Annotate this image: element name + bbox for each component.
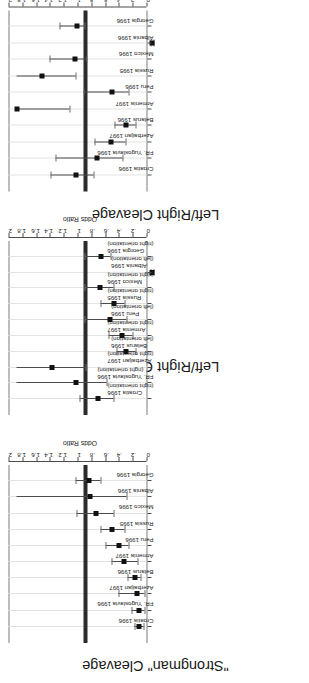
point-estimate <box>97 285 102 290</box>
confidence-interval-bar <box>50 174 93 175</box>
frame-top-line <box>8 10 9 191</box>
ci-upper-cap <box>84 253 85 260</box>
category-tick <box>147 610 151 611</box>
category-label-country-year: Croatia 1996 <box>118 618 153 625</box>
category-label-country-year: Armenia 1997 <box>115 100 153 107</box>
frame-top-line <box>8 465 9 643</box>
axis-tick-label: 1.6 <box>30 0 39 4</box>
point-estimate <box>109 527 114 532</box>
estimate-marker <box>8 42 146 43</box>
point-estimate <box>95 396 100 401</box>
axis-tick-label: 1 <box>77 228 80 235</box>
axis-tick-label: .8 <box>89 228 94 235</box>
category-tick <box>147 577 151 578</box>
point-estimate <box>109 89 114 94</box>
axis-tick-label: 0 <box>146 228 149 235</box>
category-label: Albania 1996 <box>117 34 153 41</box>
category-label-country-year: Russia 1995 <box>119 67 153 74</box>
category-tick <box>147 303 151 304</box>
ci-lower-cap <box>113 510 114 517</box>
category-label-orientation: (right orientation) <box>107 320 153 327</box>
category-label: Belarus 1996 <box>117 569 153 576</box>
estimate-marker <box>8 141 146 142</box>
category-label-country-year: Belarus 1996 <box>111 343 147 350</box>
category-label: Georgia 1996 <box>116 17 153 24</box>
category-label-country-year: Russia 1995 <box>119 521 153 528</box>
estimate-marker <box>8 25 146 26</box>
odds-ratio-axis-line <box>8 237 146 238</box>
panel-title-text: "Strongman" Cleavage <box>81 658 228 674</box>
axis-tick-label: 2 <box>8 0 11 4</box>
panel-title: Left/Right Cleavage <box>0 197 309 231</box>
category-label: Armenia 1997 <box>115 100 153 107</box>
ci-upper-cap <box>84 284 85 291</box>
axis-tick-label: 0 <box>146 0 149 4</box>
estimate-marker <box>8 513 146 514</box>
category-label-country-year: Azerbaijan 1997 <box>109 585 153 592</box>
point-estimate <box>73 380 78 385</box>
category-tick <box>147 513 151 514</box>
point-estimate <box>14 106 19 111</box>
category-label-country-year: FR. Yugoslavia 1996 <box>97 374 153 381</box>
odds-ratio-axis-line <box>8 461 146 462</box>
category-tick <box>147 58 151 59</box>
category-label: Croatia 1996 <box>118 618 153 625</box>
category-label: Azerbaijan 1997 <box>109 585 153 592</box>
category-label-country-year: FR. Yugoslavia 1996 <box>97 601 153 608</box>
ci-upper-cap <box>111 558 112 565</box>
ci-upper-cap <box>105 542 106 549</box>
category-label: FR. Yugoslavia 1996(right orientation) <box>97 367 153 381</box>
category-label: Russia 1995(right orientation) <box>107 288 153 302</box>
category-tick <box>147 75 151 76</box>
ci-lower-cap <box>86 55 87 62</box>
category-tick <box>147 25 151 26</box>
reference-line <box>83 465 87 643</box>
category-tick <box>147 319 151 320</box>
category-label-country-year: Peru 1996 <box>125 83 153 90</box>
category-label: Georgia 1996(right orientation) <box>107 241 153 255</box>
axis-title-odds-ratio: Odds Ratio <box>62 216 96 223</box>
category-label: Armenia 1997(right orientation) <box>107 320 153 334</box>
category-label-country-year: Croatia 1996 <box>118 165 153 172</box>
category-label-country-year: Croatia 1996 <box>107 390 142 397</box>
estimate-marker <box>8 75 146 76</box>
category-tick <box>147 157 151 158</box>
category-tick <box>147 561 151 562</box>
ci-upper-cap <box>94 138 95 145</box>
axis-title-odds-ratio: Odds Ratio <box>62 440 96 447</box>
axis-tick-label: .4 <box>117 0 122 4</box>
axis-tick-label: .6 <box>103 452 108 459</box>
axis-tick-label: 2 <box>8 228 11 235</box>
category-label-orientation: (right orientation) <box>107 272 153 279</box>
confidence-interval-bar <box>59 25 84 26</box>
category-label: Belarus 1996(left orientation) <box>111 336 153 350</box>
category-label: Mexico 1996 <box>118 50 153 57</box>
estimate-marker <box>8 610 146 611</box>
category-label-country-year: Azerbaijan 1997 <box>107 358 151 365</box>
ci-lower-cap <box>84 22 85 29</box>
category-label-orientation: (right orientation) <box>107 351 153 358</box>
estimate-marker <box>8 496 146 497</box>
estimate-marker <box>8 124 146 125</box>
panel-strongman-cleavage: "Strongman" Cleavage0.2.4.6.811.21.41.61… <box>0 455 309 683</box>
ci-upper-cap <box>76 510 77 517</box>
category-label: FR. Yugoslavia 1996 <box>97 149 153 156</box>
category-tick <box>147 124 151 125</box>
category-label-orientation: (left orientation) <box>111 336 153 343</box>
axis-tick-label: 1.2 <box>58 228 67 235</box>
estimate-marker <box>8 91 146 92</box>
axis-tick-label: 1.8 <box>17 452 26 459</box>
estimate-marker <box>8 626 146 627</box>
axis-tick-label: 1.4 <box>44 0 53 4</box>
confidence-interval-bar <box>16 108 69 109</box>
plot-area: Left/Right Cleavage(direction aligned in… <box>0 231 309 455</box>
point-estimate <box>116 543 121 548</box>
category-label: Croatia 1996 <box>118 165 153 172</box>
category-tick <box>147 626 151 627</box>
category-tick <box>147 42 151 43</box>
panel-title: Left/Right Cleavage(direction aligned in… <box>0 421 309 455</box>
axis-tick-label: 1.8 <box>17 228 26 235</box>
confidence-interval-bar <box>118 593 144 594</box>
estimate-marker <box>8 593 146 594</box>
ci-upper-cap <box>114 121 115 128</box>
